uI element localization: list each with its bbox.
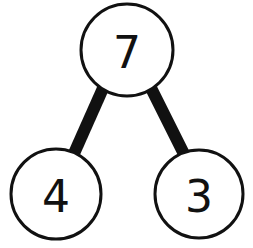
- whole-node: 7: [81, 4, 173, 96]
- right-part-value: 3: [185, 171, 213, 222]
- connector-whole-to-right-part: [150, 86, 186, 158]
- connector-whole-to-left-part: [72, 86, 104, 158]
- whole-value: 7: [113, 27, 141, 78]
- left-part-node: 4: [11, 149, 101, 239]
- left-part-value: 4: [42, 171, 70, 222]
- number-bond-diagram: 7 4 3: [0, 0, 253, 248]
- right-part-node: 3: [155, 150, 243, 238]
